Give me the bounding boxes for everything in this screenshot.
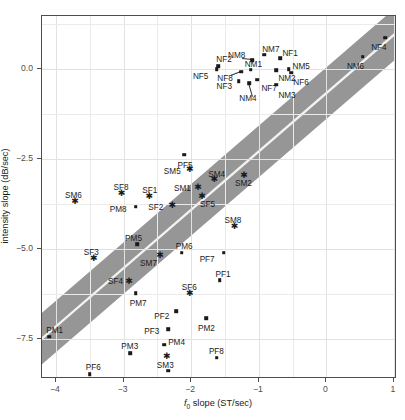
point-label: PM5: [125, 235, 142, 243]
point-label: SF8: [114, 184, 129, 192]
star-marker-icon: ✱: [156, 251, 164, 260]
y-tick: [37, 338, 41, 339]
point-label: SF5: [200, 201, 215, 209]
point-label: PF7: [200, 256, 215, 264]
x-tick: [325, 378, 326, 382]
point-label: NF3: [217, 83, 232, 91]
square-marker-icon: [47, 335, 51, 339]
point-label: SF1: [142, 187, 157, 195]
gridline-vertical: [56, 16, 57, 377]
x-tick-label: −4: [50, 384, 60, 394]
gridline-horizontal-minor: [42, 24, 395, 25]
square-marker-icon: [183, 153, 187, 157]
gridline-vertical: [326, 16, 327, 377]
x-tick-label: 0: [323, 384, 328, 394]
square-marker-icon: [88, 372, 92, 376]
x-tick-label: 1: [391, 384, 396, 394]
star-marker-icon: ✱: [198, 191, 206, 200]
star-marker-icon: ✱: [186, 165, 194, 174]
square-marker-icon: [166, 327, 170, 331]
point-label: NM5: [293, 63, 310, 71]
gridline-horizontal: [42, 339, 395, 340]
gridline-vertical-minor: [225, 16, 226, 377]
x-tick: [123, 378, 124, 382]
square-marker-icon: [129, 352, 133, 356]
point-label: PM2: [198, 325, 215, 333]
scatter-plot-figure: NF4NM6NM7NM8NF1NF2NF5NM1NM5NM2NF6NF8NF7N…: [0, 0, 405, 420]
square-marker-icon: [275, 83, 279, 87]
star-marker-icon: ✱: [240, 170, 248, 179]
point-label: SM1: [174, 185, 191, 193]
x-tick: [55, 378, 56, 382]
point-label: PM7: [130, 300, 147, 308]
x-tick: [258, 378, 259, 382]
point-label: NM6: [347, 63, 364, 71]
square-marker-icon: [275, 69, 279, 73]
point-label: PF6: [86, 364, 101, 372]
square-marker-icon: [175, 309, 179, 313]
x-axis-title: f0 slope (ST/sec): [184, 398, 252, 410]
y-tick: [37, 158, 41, 159]
y-tick-label: −7.5: [16, 333, 33, 343]
point-label: NM7: [262, 46, 279, 54]
x-tick: [393, 378, 394, 382]
point-label: SF3: [84, 249, 99, 257]
square-marker-icon: [222, 251, 226, 255]
square-marker-icon: [237, 79, 241, 83]
y-tick-label: −5.0: [16, 243, 33, 253]
point-label: PM8: [110, 206, 127, 214]
square-marker-icon: [162, 343, 166, 347]
point-label: PF3: [144, 328, 159, 336]
point-label: SM8: [224, 217, 241, 225]
x-tick: [190, 378, 191, 382]
point-label: SF2: [148, 204, 163, 212]
y-axis-title: intensity slope (dB/sec): [0, 149, 10, 244]
point-label: PF1: [216, 271, 231, 279]
square-marker-icon: [204, 316, 208, 320]
square-marker-icon: [215, 67, 219, 71]
star-marker-icon: ✱: [125, 277, 133, 286]
point-label: PM1: [46, 327, 63, 335]
gridline-horizontal-minor: [42, 204, 395, 205]
y-tick-label: −2.5: [16, 153, 33, 163]
point-label: SM4: [208, 171, 225, 179]
y-tick: [37, 68, 41, 69]
square-marker-icon: [383, 36, 387, 40]
point-label: PM4: [168, 339, 185, 347]
square-marker-icon: [361, 55, 365, 59]
y-tick: [37, 248, 41, 249]
point-label: NF4: [371, 44, 386, 52]
x-tick-label: −1: [253, 384, 263, 394]
gridline-horizontal-minor: [42, 294, 395, 295]
point-label: SF6: [182, 284, 197, 292]
point-label: NM4: [239, 95, 256, 103]
point-label: SF4: [108, 278, 123, 286]
point-label: NF6: [293, 79, 308, 87]
square-marker-icon: [166, 369, 170, 373]
square-marker-icon: [289, 71, 293, 75]
square-marker-icon: [134, 291, 138, 295]
square-marker-icon: [248, 82, 252, 86]
point-label: SM7: [140, 260, 157, 268]
point-label: NF5: [193, 73, 208, 81]
point-label: PF8: [209, 348, 224, 356]
square-marker-icon: [180, 251, 184, 255]
point-label: SM2: [235, 180, 252, 188]
point-label: SM6: [65, 192, 82, 200]
square-marker-icon: [134, 205, 138, 209]
gridline-vertical-minor: [90, 16, 91, 377]
gridline-horizontal-minor: [42, 114, 395, 115]
point-label: NM3: [278, 92, 295, 100]
gridline-vertical: [259, 16, 260, 377]
point-label: PF2: [154, 313, 169, 321]
x-tick-label: −2: [185, 384, 195, 394]
gridline-vertical: [191, 16, 192, 377]
point-label: NF1: [282, 50, 297, 58]
point-label: SM3: [157, 362, 174, 370]
gridline-vertical: [394, 16, 395, 377]
point-label: SM5: [164, 168, 181, 176]
plot-panel: NF4NM6NM7NM8NF1NF2NF5NM1NM5NM2NF6NF8NF7N…: [41, 15, 396, 378]
x-tick-label: −3: [118, 384, 128, 394]
gridline-horizontal: [42, 159, 395, 160]
point-label: NM1: [245, 61, 262, 69]
